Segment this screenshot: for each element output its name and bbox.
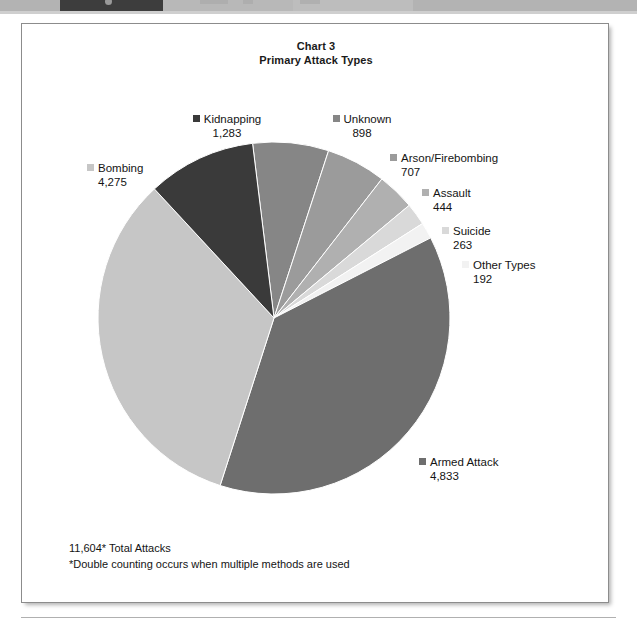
callout-arson-label: Arson/Firebombing [390, 151, 560, 165]
callout-bombing-value: 4,275 [87, 175, 207, 189]
pie-chart-svg [22, 24, 610, 604]
callout-other-types-value: 192 [462, 272, 592, 286]
callout-assault: Assault 444 [422, 186, 542, 214]
callout-assault-value: 444 [422, 200, 542, 214]
document-page: Chart 3 Primary Attack Types Kidnapping … [0, 14, 637, 622]
legend-swatch-suicide [442, 227, 449, 234]
callout-armed-attack: Armed Attack 4,833 [419, 455, 559, 483]
app-chrome-strip [0, 0, 637, 14]
callout-bombing: Bombing 4,275 [87, 161, 207, 189]
callout-suicide-label: Suicide [442, 224, 562, 238]
legend-swatch-armed-attack [419, 458, 426, 465]
callout-kidnapping: Kidnapping 1,283 [172, 112, 282, 140]
legend-swatch-bombing [87, 164, 94, 171]
tab-label-glyph-c [300, 0, 320, 4]
callout-bombing-label: Bombing [87, 161, 207, 175]
callout-armed-attack-label: Armed Attack [419, 455, 559, 469]
callout-other-types-label: Other Types [462, 258, 592, 272]
footnote-total: 11,604* Total Attacks [69, 540, 350, 556]
chart-footnotes: 11,604* Total Attacks *Double counting o… [69, 540, 350, 572]
callout-arson: Arson/Firebombing 707 [390, 151, 560, 179]
legend-swatch-arson [390, 154, 397, 161]
pie-chart: Kidnapping 1,283 Unknown 898 Bombing 4,2… [22, 24, 610, 604]
callout-other-types: Other Types 192 [462, 258, 592, 286]
callout-unknown-value: 898 [310, 126, 414, 140]
callout-assault-label: Assault [422, 186, 542, 200]
footnote-note: *Double counting occurs when multiple me… [69, 556, 350, 572]
pie-slice-group [98, 142, 450, 494]
callout-kidnapping-label: Kidnapping [172, 112, 282, 126]
legend-swatch-kidnapping [193, 115, 200, 122]
page-bottom-rule [21, 617, 616, 618]
tab-label-glyph-a [200, 0, 228, 4]
callout-kidnapping-value: 1,283 [172, 126, 282, 140]
callout-suicide-value: 263 [442, 238, 562, 252]
callout-unknown: Unknown 898 [310, 112, 414, 140]
legend-swatch-unknown [333, 115, 340, 122]
tab-label-glyph-b [243, 0, 253, 4]
chart-frame: Chart 3 Primary Attack Types Kidnapping … [21, 23, 609, 603]
callout-suicide: Suicide 263 [442, 224, 562, 252]
legend-swatch-assault [422, 189, 429, 196]
callout-arson-value: 707 [390, 165, 560, 179]
legend-swatch-other-types [462, 261, 469, 268]
callout-armed-attack-value: 4,833 [419, 469, 559, 483]
callout-unknown-label: Unknown [310, 112, 414, 126]
